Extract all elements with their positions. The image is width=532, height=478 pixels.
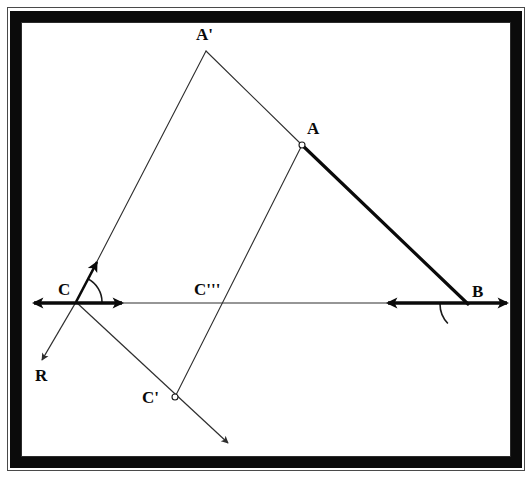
segment-A-to-B — [302, 145, 468, 304]
segment-A-prime-to-A — [206, 51, 302, 145]
point-label-Ap: A' — [196, 26, 213, 43]
ray-through-C-prime — [76, 302, 228, 443]
point-label-B: B — [472, 283, 483, 300]
geometry-canvas — [0, 0, 532, 478]
point-label-Cpp: C''' — [194, 281, 220, 298]
point-label-Cp: C' — [142, 389, 159, 406]
diagram-page: AA'BCC'C'''R — [0, 0, 532, 478]
point-marker-A — [299, 142, 305, 148]
angle-arc-at-B — [440, 304, 448, 323]
segment-group — [76, 51, 468, 397]
point-label-R: R — [35, 367, 47, 384]
angle-arc-group — [88, 279, 448, 323]
point-label-C: C — [58, 281, 70, 298]
angle-arc-at-C — [88, 279, 102, 302]
point-label-A: A — [307, 120, 319, 137]
segment-A-to-C-prime — [175, 145, 302, 397]
point-marker-Cp — [172, 394, 178, 400]
ray-C-to-R — [42, 302, 76, 360]
